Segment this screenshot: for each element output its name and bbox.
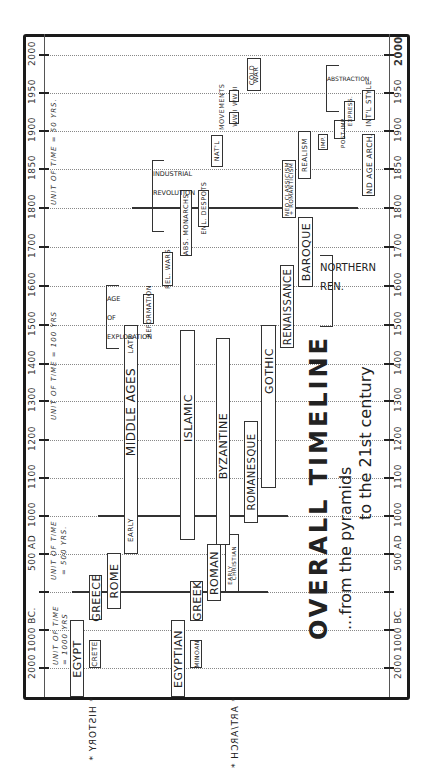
box-ww2: WW II: [229, 90, 239, 102]
box-roman: ROMAN: [207, 544, 221, 601]
axis-tick: [39, 363, 49, 365]
box-egyptian: EGYPTIAN: [171, 620, 185, 697]
axis-label: 500 AD: [393, 535, 403, 571]
grid-line: [50, 325, 383, 326]
box-northern-ren: NORTHERN REN.: [320, 255, 333, 327]
box-post-imp: POST-IMP.: [334, 120, 345, 139]
box-age-of-exploration: AGE OF EXPLORATION: [106, 285, 119, 349]
axis-label: 1000 BC.: [27, 607, 37, 652]
axis-label: 2000: [27, 41, 37, 66]
axis-label: 1700: [393, 233, 403, 258]
axis-label: 1000: [27, 502, 37, 527]
box-crete: CRETE: [89, 640, 101, 668]
axis-label: 500 AD: [27, 535, 37, 571]
box-natl-movements: NAT'L: [211, 135, 223, 167]
axis-label: 1850: [27, 155, 37, 180]
axis-label: 1400: [393, 350, 403, 375]
axis-label: 1850: [393, 155, 403, 180]
box-romanesque: ROMANESQUE: [244, 421, 258, 523]
box-imp: IMP.: [318, 134, 328, 150]
axis-tick: [39, 92, 49, 94]
axis-label: 1200: [393, 426, 403, 451]
axis-tick: [384, 591, 394, 593]
box-middle-ages: MIDDLE AGES EARLY LATE: [124, 325, 138, 554]
era-line-1800-history: [132, 207, 358, 209]
axis-label: 1300: [393, 387, 403, 412]
box-neo-classicism: NEO CLASSICISM + ROMANTICISM: [282, 160, 296, 218]
box-intl-style: INT'L STYLE: [362, 90, 375, 120]
axis-label: 1100: [27, 464, 37, 489]
axis-label: 1400: [27, 350, 37, 375]
unit-500-label-a: UNIT OF TIME: [50, 521, 59, 581]
subtitle-line-2: to the 21st century: [356, 366, 375, 520]
main-title: OVERALL TIMELINE: [305, 335, 333, 640]
subtitle-line-1: ...from the pyramids: [336, 467, 355, 630]
grid-line: [50, 668, 383, 669]
axis-label: 1900: [27, 117, 37, 142]
axis-tick: [39, 130, 49, 132]
box-baroque: BAROQUE: [298, 217, 313, 287]
axis-label: 1800: [27, 194, 37, 219]
unit-1000-label-a: UNIT OF TIME: [52, 606, 61, 666]
unit-50-label: UNIT OF TIME = 50 YRS.: [50, 98, 59, 205]
unit-500-label-b: = 500 YRS.: [60, 526, 69, 575]
axis-label: 1950: [393, 79, 403, 104]
grid-line: [50, 247, 383, 248]
box-rome: ROME: [107, 553, 121, 609]
axis-tick: [39, 477, 49, 479]
box-industrial-revolution: INDUSTRIAL REVOLUTION: [152, 160, 164, 232]
box-greece: GREECE: [89, 575, 102, 620]
axis-tick: [39, 54, 49, 56]
box-byzantine: BYZANTINE: [216, 338, 230, 545]
axis-label: 2000: [27, 654, 37, 679]
grid-line: [50, 55, 383, 56]
axis-label: 1800: [393, 194, 403, 219]
axis-label: 2000: [393, 654, 403, 679]
axis-tick: [39, 515, 49, 517]
grid-line: [50, 169, 383, 170]
axis-tick: [39, 207, 49, 209]
axis-tick: [39, 324, 49, 326]
grid-line: [50, 630, 383, 631]
axis-tick: [39, 285, 49, 287]
axis-tick: [39, 168, 49, 170]
box-renaissance: RENAISSANCE: [280, 265, 294, 348]
label-movements: MOVEMENTS: [218, 84, 226, 130]
axis-label: 1500: [27, 311, 37, 336]
box-ind-age-arch: IND AGE ARCH.: [362, 134, 375, 196]
box-islamic: ISLAMIC: [180, 330, 195, 540]
box-abs-monarchs: ABS. MONARCHS: [180, 190, 192, 256]
axis-label: 1700: [27, 233, 37, 258]
box-gothic: GOTHIC: [261, 325, 276, 488]
axis-tick: [39, 667, 49, 669]
axis-tick: [39, 400, 49, 402]
axis-label: 1300: [27, 387, 37, 412]
box-minoan: MINOAN: [190, 640, 202, 668]
box-express: EXPRESS.: [344, 101, 355, 121]
axis-tick: [39, 553, 49, 555]
axis-label: 1100: [393, 464, 403, 489]
box-realism: REALISM: [298, 131, 311, 179]
box-enl-despots: ENL. DESPOTS: [198, 190, 209, 227]
unit-1000-label-b: = 1000 YRS: [61, 613, 70, 665]
axis-label: 1600: [27, 272, 37, 297]
axis-label: 1000: [393, 502, 403, 527]
history-section-label: * HISTORY *: [88, 697, 98, 762]
box-egypt: EGYPT: [70, 620, 84, 697]
axis-label: 1200: [27, 426, 37, 451]
axis-tick: [39, 629, 49, 631]
unit-100-label: UNIT OF TIME = 100 YRS: [50, 311, 59, 420]
art-arch-section-label: * ART/ARCH *: [230, 697, 240, 769]
axis-tick: [39, 246, 49, 248]
left-axis-line: [44, 34, 45, 697]
axis-label: 1500: [393, 311, 403, 336]
right-axis-line: [389, 34, 390, 697]
axis-tick: [39, 591, 49, 593]
axis-label: 1000 BC.: [393, 607, 403, 652]
box-rel-wars: REL. WARS: [162, 252, 173, 286]
box-cold-war: COLD WAR: [247, 58, 261, 91]
box-abstraction: ABSTRACTION: [326, 65, 339, 112]
axis-tick: [39, 439, 49, 441]
axis-label: 1900: [393, 117, 403, 142]
box-reformation: REFORMATION: [143, 294, 154, 324]
